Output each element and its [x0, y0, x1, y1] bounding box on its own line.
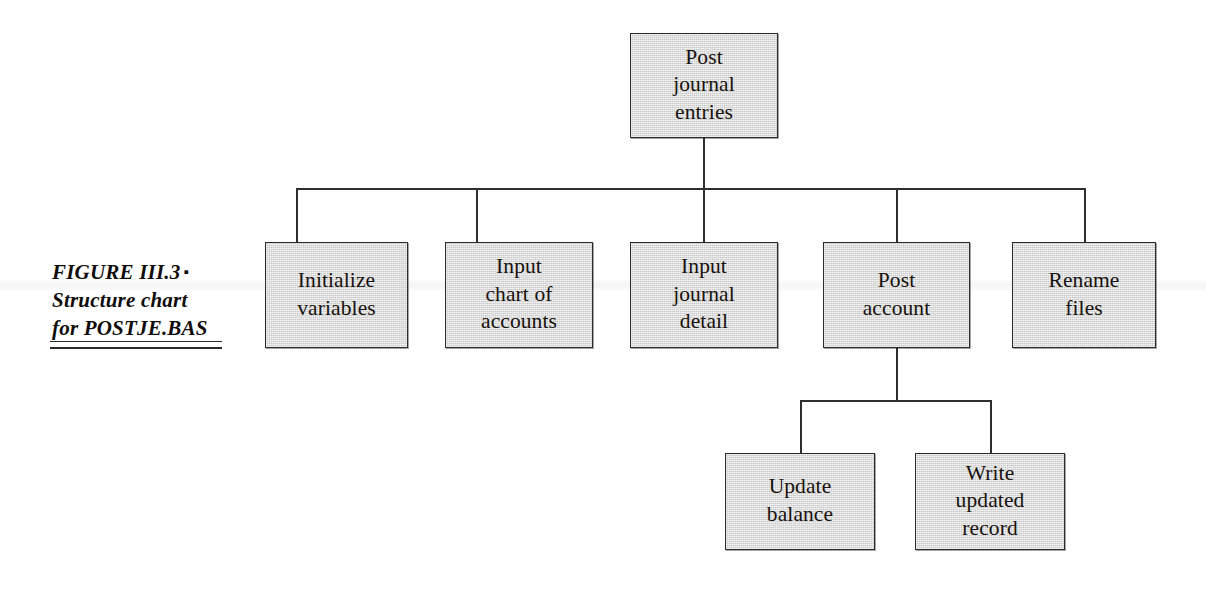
node-label: Input chart of accounts — [481, 253, 557, 337]
node-label: Input journal detail — [673, 253, 735, 337]
node-rename-files[interactable]: Rename files — [1012, 242, 1156, 348]
caption-rule-lower — [50, 347, 222, 349]
node-label: Post account — [863, 267, 931, 323]
connector-drop-rename — [1084, 188, 1086, 242]
figure-caption-line-1: FIGURE III.3▪ — [52, 259, 292, 287]
figure-canvas: Post journal entries Initialize variable… — [0, 0, 1206, 598]
connector-top-bus — [296, 188, 1084, 190]
connector-root-stem — [703, 138, 705, 188]
connector-bottom-bus — [800, 400, 990, 402]
connector-drop-write — [990, 400, 992, 453]
figure-number: FIGURE III.3 — [52, 260, 180, 284]
connector-drop-journal — [703, 188, 705, 242]
node-input-journal-detail[interactable]: Input journal detail — [630, 242, 778, 348]
connector-drop-init — [296, 188, 298, 242]
node-update-balance[interactable]: Update balance — [725, 453, 875, 550]
connector-drop-update — [800, 400, 802, 453]
connector-drop-chart — [476, 188, 478, 242]
figure-caption: FIGURE III.3▪ Structure chart for POSTJE… — [52, 259, 292, 343]
node-label: Post journal entries — [673, 44, 735, 128]
node-label: Initialize variables — [297, 267, 376, 323]
figure-caption-marker: ▪ — [180, 264, 189, 280]
connector-drop-post — [896, 188, 898, 242]
figure-caption-line-3: for POSTJE.BAS — [52, 315, 292, 343]
node-post-journal-entries[interactable]: Post journal entries — [630, 33, 778, 138]
caption-rule-upper — [50, 341, 222, 342]
figure-caption-rules — [50, 341, 222, 349]
node-input-chart-of-accounts[interactable]: Input chart of accounts — [445, 242, 593, 348]
node-write-updated-record[interactable]: Write updated record — [915, 453, 1065, 550]
node-label: Update balance — [767, 473, 833, 529]
connector-post-stem — [896, 348, 898, 400]
node-label: Write updated record — [956, 460, 1025, 544]
node-label: Rename files — [1048, 267, 1119, 323]
figure-caption-line-2: Structure chart — [52, 287, 292, 315]
node-post-account[interactable]: Post account — [823, 242, 970, 348]
